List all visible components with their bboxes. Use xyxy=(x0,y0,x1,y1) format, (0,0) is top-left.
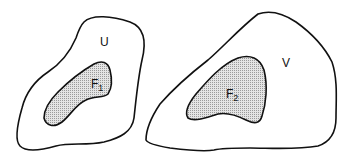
label-f2: F2 xyxy=(226,88,238,103)
region-f1-shaded xyxy=(44,62,111,125)
diagram-canvas xyxy=(0,0,356,164)
label-f2-subscript: 2 xyxy=(233,93,238,103)
label-u: U xyxy=(100,36,109,48)
label-f1-subscript: 1 xyxy=(98,83,103,93)
label-f1: F1 xyxy=(91,78,103,93)
label-v: V xyxy=(282,57,290,69)
label-u-text: U xyxy=(100,35,109,49)
label-v-text: V xyxy=(282,56,290,70)
